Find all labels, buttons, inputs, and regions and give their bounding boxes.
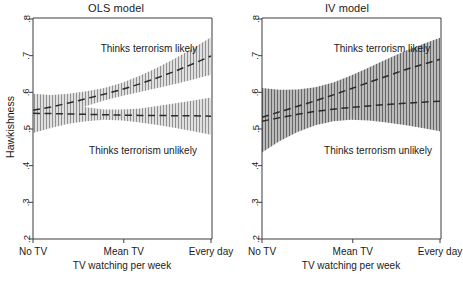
x-tick-label-iv-2: Every day — [418, 246, 462, 257]
y-tick-label-ols-4: .6 — [21, 88, 32, 96]
annotation-likely-ols: Thinks terrorism likely — [101, 43, 198, 54]
annotation-likely-iv: Thinks terrorism likely — [334, 43, 431, 54]
y-tick-label-iv-5: .7 — [250, 52, 261, 60]
y-tick-label-iv-0: .2 — [250, 235, 261, 243]
x-tick-label-iv-0: No TV — [248, 246, 276, 257]
x-tick-label-ols-1: Mean TV — [104, 246, 145, 257]
x-tick-label-ols-2: Every day — [189, 246, 233, 257]
annotation-unlikely-iv: Thinks terrorism unlikely — [324, 145, 432, 156]
y-tick-label-ols-5: .7 — [21, 52, 32, 60]
x-tick-label-ols-0: No TV — [19, 246, 47, 257]
y-tick-label-iv-3: .5 — [250, 125, 261, 133]
x-axis-title-ols: TV watching per week — [73, 260, 172, 271]
y-tick-label-iv-2: .4 — [250, 162, 261, 170]
x-tick-label-iv-1: Mean TV — [333, 246, 374, 257]
y-tick-label-ols-1: .3 — [21, 198, 32, 206]
y-tick-label-ols-2: .4 — [21, 162, 32, 170]
y-tick-label-iv-4: .6 — [250, 88, 261, 96]
chart-canvas: .2.3.4.5.6.7.8No TVMean TVEvery dayTV wa… — [0, 0, 463, 297]
annotation-unlikely-ols: Thinks terrorism unlikely — [89, 145, 197, 156]
y-tick-label-ols-6: .8 — [21, 15, 32, 23]
y-tick-label-iv-6: .8 — [250, 15, 261, 23]
y-tick-label-ols-0: .2 — [21, 235, 32, 243]
y-tick-label-iv-1: .3 — [250, 198, 261, 206]
y-tick-label-ols-3: .5 — [21, 125, 32, 133]
x-axis-title-iv: TV watching per week — [302, 260, 401, 271]
